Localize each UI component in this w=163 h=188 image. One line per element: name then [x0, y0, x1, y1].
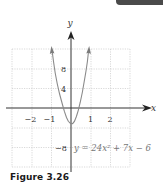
x-tick-1: 1: [88, 115, 93, 124]
parabola-curve: [52, 52, 88, 124]
x-axis-label: x: [151, 103, 156, 113]
curve-arrow-left-icon: [50, 46, 55, 54]
x-tick-2: 2: [108, 115, 113, 124]
x-tick-neg2: −2: [25, 115, 37, 124]
y-tick-4: 4: [61, 85, 66, 94]
curve-arrow-right-icon: [86, 46, 91, 54]
x-tick-neg1: −1: [44, 115, 56, 124]
y-tick-8: 8: [61, 65, 66, 74]
equation-label: y = 24x² + 7x − 6: [73, 143, 152, 153]
figure-caption: Figure 3.26: [10, 172, 69, 182]
y-tick-neg8: −8: [55, 144, 67, 153]
parabola-graph: y x 8 4 −8 −2 −1 1 2 y = 24x² + 7x − 6: [0, 0, 163, 188]
y-axis-label: y: [67, 18, 74, 28]
